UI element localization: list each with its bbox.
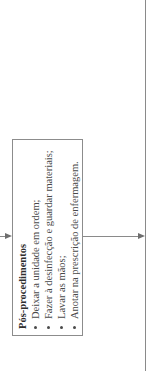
outgoing-arrow-head-icon	[138, 233, 145, 239]
list-item: Deixar a unidade em ordem;	[29, 140, 42, 329]
bullet-icon	[47, 326, 50, 329]
pos-procedimentos-box: Pós-procedimentos Deixar a unidade em or…	[12, 139, 83, 336]
box-rotated-content: Pós-procedimentos Deixar a unidade em or…	[13, 140, 82, 335]
bullet-icon	[73, 326, 76, 329]
outgoing-arrow-line	[83, 236, 139, 237]
box-title: Pós-procedimentos	[16, 140, 29, 329]
incoming-arrow-head-icon	[5, 233, 12, 239]
flow-connector-vertical-line	[145, 0, 146, 371]
list-item: Anotar na prescrição de enfermagem.	[68, 140, 81, 329]
step-list: Deixar a unidade em ordem; Fazer à desin…	[29, 140, 81, 329]
bullet-icon	[60, 326, 63, 329]
bullet-icon	[34, 326, 37, 329]
list-item: Lavar as mãos;	[55, 140, 68, 329]
list-item: Fazer à desinfecção e guardar materiais;	[42, 140, 55, 329]
